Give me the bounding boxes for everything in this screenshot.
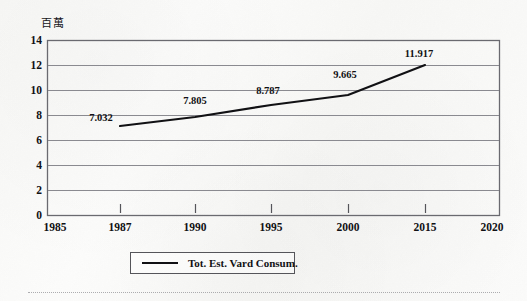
y-tick-0: 0 — [20, 210, 42, 222]
x-tick-1987: 1987 — [109, 221, 132, 233]
x-tick-1995: 1995 — [260, 221, 283, 233]
page-dotted-rule — [28, 292, 500, 293]
plot-frame — [48, 41, 500, 216]
data-label-2000: 9.665 — [333, 69, 357, 80]
data-label-1995: 8.787 — [256, 85, 280, 96]
x-tick-2000: 2000 — [337, 221, 360, 233]
x-tick-2020: 2020 — [481, 221, 504, 233]
x-tick-1990: 1990 — [184, 221, 207, 233]
y-tick-2: 2 — [20, 185, 42, 197]
data-label-2015: 11.917 — [405, 48, 433, 59]
y-tick-6: 6 — [20, 135, 42, 147]
y-tick-12: 12 — [20, 60, 42, 72]
y-tick-14: 14 — [20, 35, 42, 47]
y-tick-8: 8 — [20, 110, 42, 122]
y-tick-4: 4 — [20, 160, 42, 172]
line-chart: 百萬 14 12 10 8 6 4 2 — [0, 0, 527, 301]
y-axis-tick-labels: 14 12 10 8 6 4 2 0 — [18, 0, 42, 301]
legend-label-tot-est-vard-consum: Tot. Est. Vard Consum. — [188, 257, 298, 269]
x-tick-2015: 2015 — [414, 221, 437, 233]
legend-line-swatch — [142, 262, 178, 264]
chart-legend: Tot. Est. Vard Consum. — [130, 252, 295, 274]
x-tick-1985: 1985 — [44, 221, 67, 233]
data-label-1990: 7.805 — [183, 95, 207, 106]
y-tick-10: 10 — [20, 85, 42, 97]
x-tick-marks — [121, 204, 426, 213]
data-label-1987: 7.032 — [89, 112, 113, 123]
